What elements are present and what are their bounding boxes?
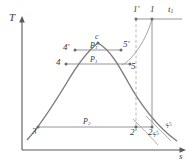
- point-4-prime: [74, 49, 77, 52]
- state-label-5-prime: 5′: [123, 40, 129, 49]
- isotherm-t1-label: t1: [168, 5, 173, 15]
- state-label-4-prime: 4′: [63, 43, 69, 52]
- pressure-label-p1-prime: P1′: [90, 42, 98, 51]
- point-1-prime: [135, 18, 138, 21]
- state-label-3: 3: [32, 127, 37, 136]
- point-4: [65, 63, 68, 66]
- pressure-label-p2-sub: 2: [88, 121, 90, 126]
- isotherm-t1-label-sub: 1: [171, 8, 174, 14]
- axes-group: [19, 16, 186, 153]
- state-label-1-prime: 1′: [133, 5, 139, 14]
- state-label-2-prime: 2′: [130, 128, 136, 137]
- x-axis-label: s: [179, 152, 183, 161]
- y-axis-label: T: [9, 12, 15, 23]
- saturation-dome-curve: [27, 43, 177, 141]
- pressure-label-p1-sub: 1: [95, 59, 97, 64]
- state-label-4: 4: [56, 58, 61, 67]
- ts-diagram-figure: T s 1′ 1 t1 c 4′ 5′ P1′ 4 5 P1 3 P2 2′ 2…: [0, 0, 193, 166]
- state-label-1: 1: [150, 5, 155, 14]
- pressure-label-p1-prime-sub: 1′: [95, 45, 99, 50]
- critical-point-label: c: [95, 33, 99, 41]
- point-1: [151, 18, 154, 21]
- state-label-5: 5: [131, 62, 136, 71]
- y-axis-arrow: [19, 16, 25, 23]
- pressure-label-p2: P2: [83, 118, 90, 127]
- pressure-label-p1: P1: [90, 56, 97, 65]
- diagram-canvas: [0, 0, 193, 166]
